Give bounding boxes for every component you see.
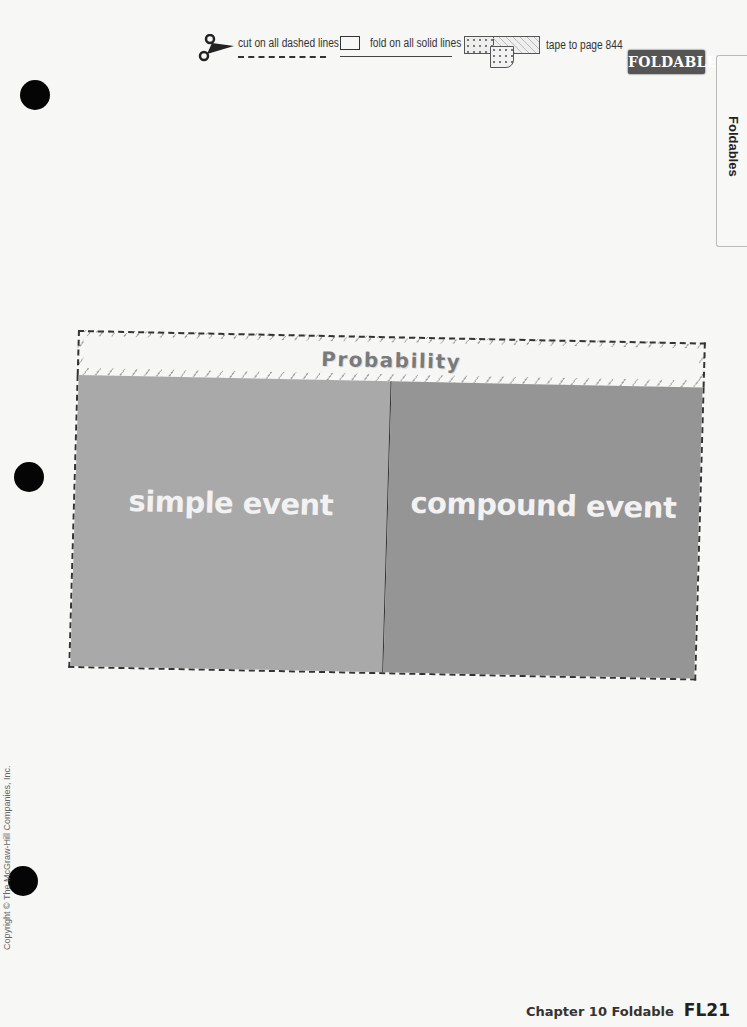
fold-icon: [340, 36, 360, 50]
cut-instruction: cut on all dashed lines: [198, 34, 328, 64]
page-footer: Chapter 10 FoldableFL21: [526, 1000, 730, 1020]
foldables-logo: FOLDABLES: [628, 50, 705, 74]
chapter-label: Chapter 10 Foldable: [526, 1004, 674, 1019]
tape-flap-icon: [490, 46, 514, 68]
foldable-body: simple event compound event: [68, 375, 704, 680]
panel-compound-event: compound event: [383, 381, 703, 678]
fold-instruction: fold on all solid lines: [340, 34, 450, 64]
solid-line-sample: [340, 56, 452, 57]
probability-foldable: Probability simple event compound event: [68, 330, 706, 680]
page-number: FL21: [684, 1000, 730, 1020]
panel-label: simple event: [124, 484, 334, 671]
scissors-icon: [198, 34, 234, 62]
punch-hole-middle: [14, 462, 44, 492]
cut-label: cut on all dashed lines: [238, 36, 339, 50]
side-tab-label: Foldables: [726, 116, 741, 177]
tape-instruction: tape to page 844: [464, 32, 614, 72]
dashed-line-sample: [238, 56, 326, 58]
foldables-side-tab: Foldables: [716, 55, 747, 247]
punch-hole-bottom: [8, 866, 38, 896]
punch-hole-top: [20, 80, 50, 110]
panel-label: compound event: [406, 486, 677, 678]
fold-label: fold on all solid lines: [370, 36, 461, 50]
copyright-notice: Copyright © The McGraw-Hill Companies, I…: [2, 765, 12, 950]
tape-label: tape to page 844: [546, 38, 623, 52]
panel-simple-event: simple event: [70, 375, 391, 672]
